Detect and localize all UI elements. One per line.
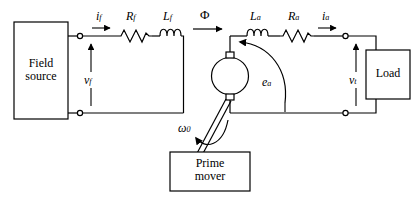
label-angular-speed: ω0 (178, 122, 191, 134)
wire-load-top (348, 36, 376, 50)
label-Rf: Rf (126, 10, 136, 22)
shaft-line-left (195, 99, 226, 157)
rotation-arrow-omega (196, 120, 228, 144)
field-source-label: Field source (14, 57, 68, 84)
label-terminal-voltage: vt (349, 74, 357, 86)
wire-field-top-right (181, 36, 184, 44)
dc-machine-circle (212, 58, 249, 95)
label-field-voltage: vf (84, 74, 92, 86)
wire-load-bottom (348, 99, 376, 113)
label-field-current: if (96, 10, 102, 22)
label-La: La (250, 10, 261, 22)
brush-top (226, 52, 234, 58)
inductor-La-symbol (247, 29, 268, 36)
label-induced-emf: ea (262, 76, 271, 88)
shaft-line-right (200, 101, 231, 159)
circuit-diagram: Field source Load Prime mover if Rf Lf v… (0, 0, 420, 199)
terminal-field-positive (77, 33, 82, 38)
label-flux: Φ (200, 8, 210, 21)
label-armature-current: ia (322, 10, 329, 22)
resistor-Ra-symbol (280, 30, 314, 42)
prime-mover-label: Prime mover (170, 157, 250, 184)
resistor-Rf-symbol (118, 30, 152, 42)
load-label: Load (366, 67, 410, 80)
label-Ra: Ra (288, 10, 299, 22)
brush-bottom (226, 94, 234, 100)
terminal-armature-negative (343, 110, 348, 115)
terminal-armature-positive (343, 33, 348, 38)
terminal-field-negative (77, 110, 82, 115)
inductor-Lf-symbol (160, 29, 181, 36)
label-Lf: Lf (163, 10, 172, 22)
